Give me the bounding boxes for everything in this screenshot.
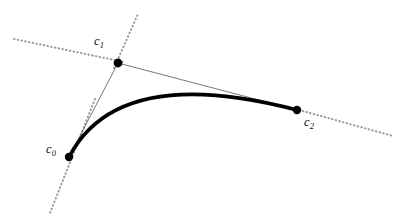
control-point-c2-label-base: c — [304, 115, 310, 129]
control-point-c2-marker[interactable] — [293, 106, 301, 114]
control-point-c1-label: c1 — [94, 35, 104, 48]
control-point-c0-label-subscript: 0 — [52, 148, 56, 158]
control-point-c0-label-base: c — [46, 142, 52, 156]
bezier-diagram-canvas — [0, 0, 412, 218]
control-point-c1-label-subscript: 1 — [100, 40, 104, 50]
control-point-c0-marker[interactable] — [65, 153, 73, 161]
bezier-curve-path — [69, 94, 297, 157]
control-point-c2-label: c2 — [304, 116, 314, 129]
control-point-c1-marker[interactable] — [114, 59, 123, 68]
control-point-c2-label-subscript: 2 — [310, 121, 314, 131]
control-point-markers-group — [65, 59, 301, 162]
tangent-line-c1-left — [14, 39, 124, 62]
bezier-figure: c0 c1 c2 — [0, 0, 412, 218]
control-point-c0-label: c0 — [46, 143, 56, 156]
control-point-c1-label-base: c — [94, 34, 100, 48]
tangent-lines-group — [14, 14, 393, 213]
control-polygon-group — [69, 63, 297, 157]
